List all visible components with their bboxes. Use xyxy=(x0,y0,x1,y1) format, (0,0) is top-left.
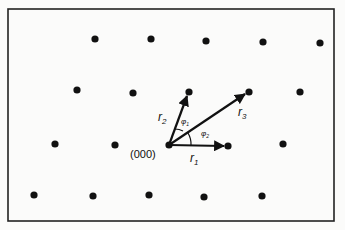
phi1-label: φ1 xyxy=(181,117,189,127)
frame xyxy=(8,9,334,221)
angle-arc-phi2 xyxy=(188,133,191,145)
lattice-points xyxy=(30,35,323,200)
lattice-diagram: (000) r1 r2 r3 φ1 φ2 xyxy=(0,0,345,230)
r3-label: r3 xyxy=(238,105,247,121)
origin-label: (000) xyxy=(130,148,156,160)
vector-r1 xyxy=(169,145,224,146)
r2-label: r2 xyxy=(158,110,167,126)
r1-label: r1 xyxy=(190,151,198,167)
phi2-label: φ2 xyxy=(201,129,209,139)
angle-arc-phi1 xyxy=(175,129,183,131)
